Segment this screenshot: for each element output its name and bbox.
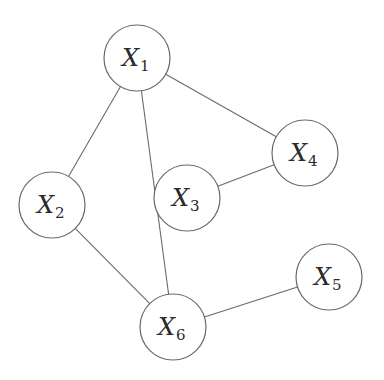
node-label-base: X	[156, 313, 176, 341]
edge-x6-x5	[204, 287, 297, 317]
node-label-subscript: 5	[332, 276, 342, 294]
nodes-layer: X1X2X3X4X5X6	[19, 25, 362, 360]
node-x6: X6	[140, 294, 206, 360]
node-x4: X4	[272, 120, 338, 186]
node-x5: X5	[296, 244, 362, 310]
edge-x2-x6	[75, 228, 150, 303]
node-label-subscript: 4	[308, 152, 318, 170]
node-label-subscript: 6	[176, 326, 186, 344]
edge-x1-x4	[166, 74, 277, 137]
node-label-base: X	[35, 191, 55, 219]
node-label-base: X	[288, 139, 308, 167]
node-label-base: X	[312, 263, 332, 291]
node-label-subscript: 2	[55, 204, 65, 222]
node-label-subscript: 1	[140, 57, 150, 75]
edge-x3-x4	[218, 165, 274, 186]
graph-canvas: X1X2X3X4X5X6	[0, 0, 384, 380]
node-x3: X3	[154, 165, 220, 231]
node-x2: X2	[19, 172, 85, 238]
node-x1: X1	[104, 25, 170, 91]
node-label-subscript: 3	[190, 197, 200, 215]
node-label-base: X	[170, 184, 190, 212]
edge-x1-x2	[69, 87, 121, 177]
node-label-base: X	[120, 44, 140, 72]
